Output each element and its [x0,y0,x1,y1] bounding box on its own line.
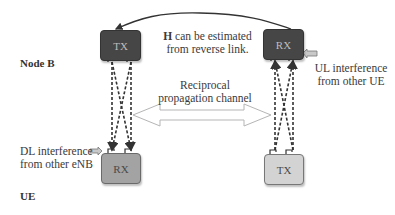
ul-interference-arrow [303,49,317,58]
node-b-label: Node B [20,57,55,70]
ul-interference-label: UL interference from other UE [308,62,394,88]
uplink-paths [275,61,293,150]
nodeb-rx-block: RX [263,29,304,60]
h-estimate-note: H can be estimated from reverse link. [155,30,260,56]
ue-label: UE [20,190,35,203]
nodeb-tx-block: TX [100,30,141,61]
ue-tx-block: TX [264,154,304,185]
ue-rx-label: RX [113,163,128,175]
ue-tx-label: TX [277,164,292,176]
h-symbol: H [163,30,172,42]
reverse-link-arrow [116,13,291,29]
nodeb-tx-label: TX [113,40,128,52]
antenna-stubs [108,58,295,154]
nodeb-rx-label: RX [276,39,291,51]
downlink-paths [112,62,131,150]
reciprocal-double-arrow [133,104,271,126]
dl-interference-label: DL interference from other eNB [20,145,93,171]
reciprocal-channel-label: Reciprocal propagation channel [150,79,260,105]
ue-rx-block: RX [101,153,141,184]
